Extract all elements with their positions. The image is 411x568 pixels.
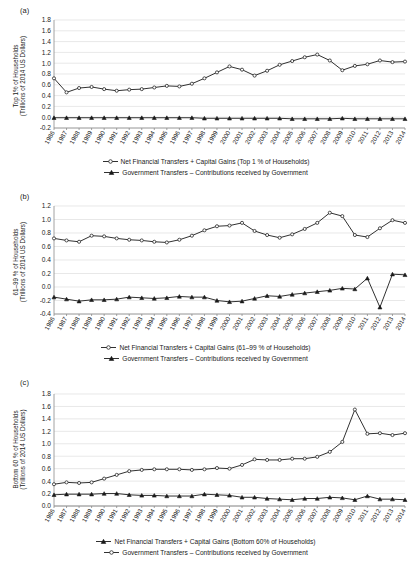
legend-item: Net Financial Transfers + Capital Gains … bbox=[0, 342, 411, 353]
svg-text:0.6: 0.6 bbox=[42, 465, 51, 472]
panel-a: (a) Top 1% of Households (Trillions of 2… bbox=[0, 0, 411, 186]
svg-text:1.0: 1.0 bbox=[42, 60, 51, 67]
svg-text:1988: 1988 bbox=[68, 507, 81, 523]
svg-text:2010: 2010 bbox=[344, 315, 357, 331]
svg-text:1989: 1989 bbox=[80, 129, 93, 145]
svg-text:1991: 1991 bbox=[105, 507, 118, 523]
panel-c-legend: Net Financial Transfers + Capital Gains … bbox=[0, 536, 411, 558]
svg-text:1994: 1994 bbox=[143, 315, 156, 331]
svg-text:1988: 1988 bbox=[68, 315, 81, 331]
svg-text:0.2: 0.2 bbox=[42, 270, 51, 277]
svg-text:1996: 1996 bbox=[168, 129, 181, 145]
svg-text:1986: 1986 bbox=[43, 315, 56, 331]
svg-text:1986: 1986 bbox=[43, 507, 56, 523]
svg-text:1994: 1994 bbox=[143, 129, 156, 145]
svg-text:0.8: 0.8 bbox=[42, 229, 51, 236]
legend-label: Government Transfers – Contributions rec… bbox=[122, 549, 307, 556]
svg-text:1987: 1987 bbox=[55, 507, 68, 523]
svg-text:2005: 2005 bbox=[281, 507, 294, 523]
svg-text:2006: 2006 bbox=[294, 507, 307, 523]
panel-a-y-axis-label-line2: (Trillions of 2014 US Dollars) bbox=[19, 17, 26, 135]
svg-text:2005: 2005 bbox=[281, 315, 294, 331]
svg-text:1993: 1993 bbox=[131, 507, 144, 523]
legend-label: Government Transfers – Contributions rec… bbox=[122, 169, 307, 176]
legend-label: Government Transfers – Contributions rec… bbox=[122, 355, 307, 362]
svg-text:1.6: 1.6 bbox=[42, 403, 51, 410]
legend-label: Net Financial Transfers + Capital Gains … bbox=[114, 538, 315, 545]
svg-text:1998: 1998 bbox=[193, 507, 206, 523]
legend-item: Government Transfers – Contributions rec… bbox=[0, 547, 411, 558]
panel-a-legend: Net Financial Transfers + Capital Gains … bbox=[0, 156, 411, 178]
svg-text:1990: 1990 bbox=[93, 129, 106, 145]
panel-b-plot-area: -0.4-0.20.00.20.40.60.81.01.219861987198… bbox=[40, 202, 411, 342]
open-circle-marker-icon bbox=[100, 343, 117, 352]
panel-c: (c) Bottom 60 % of Households (Trillions… bbox=[0, 372, 411, 568]
svg-text:1.2: 1.2 bbox=[42, 428, 51, 435]
filled-triangle-marker-icon bbox=[103, 168, 120, 177]
svg-text:1990: 1990 bbox=[93, 507, 106, 523]
svg-text:2014: 2014 bbox=[394, 315, 407, 331]
svg-text:2009: 2009 bbox=[331, 129, 344, 145]
svg-text:2013: 2013 bbox=[381, 129, 394, 145]
svg-text:1.4: 1.4 bbox=[42, 415, 51, 422]
svg-text:1.6: 1.6 bbox=[42, 27, 51, 34]
open-circle-marker-icon bbox=[103, 548, 120, 557]
svg-text:2002: 2002 bbox=[243, 315, 256, 331]
svg-text:2000: 2000 bbox=[218, 129, 231, 145]
svg-text:1992: 1992 bbox=[118, 129, 131, 145]
svg-text:0.2: 0.2 bbox=[42, 103, 51, 110]
svg-text:1987: 1987 bbox=[55, 129, 68, 145]
panel-b-y-axis-label: 61–99 % of Households (Trillions of 2014… bbox=[12, 203, 27, 321]
svg-text:2000: 2000 bbox=[218, 507, 231, 523]
panel-b: (b) 61–99 % of Households (Trillions of … bbox=[0, 186, 411, 372]
svg-text:1999: 1999 bbox=[206, 507, 219, 523]
svg-text:0.8: 0.8 bbox=[42, 70, 51, 77]
svg-text:2007: 2007 bbox=[306, 507, 319, 523]
svg-text:0.8: 0.8 bbox=[42, 453, 51, 460]
svg-text:-0.2: -0.2 bbox=[40, 297, 51, 304]
svg-text:2014: 2014 bbox=[394, 129, 407, 145]
svg-text:1990: 1990 bbox=[93, 315, 106, 331]
svg-text:1998: 1998 bbox=[193, 315, 206, 331]
svg-text:1986: 1986 bbox=[43, 129, 56, 145]
svg-text:2003: 2003 bbox=[256, 507, 269, 523]
svg-text:2011: 2011 bbox=[356, 507, 369, 523]
svg-text:0.4: 0.4 bbox=[42, 478, 51, 485]
svg-text:1992: 1992 bbox=[118, 315, 131, 331]
svg-text:2013: 2013 bbox=[381, 315, 394, 331]
filled-triangle-marker-icon bbox=[103, 354, 120, 363]
svg-text:1997: 1997 bbox=[181, 507, 194, 523]
svg-text:1995: 1995 bbox=[156, 129, 169, 145]
svg-text:1999: 1999 bbox=[206, 129, 219, 145]
svg-text:2003: 2003 bbox=[256, 129, 269, 145]
panel-a-y-axis-label-line1: Top 1% of Households bbox=[12, 45, 19, 108]
svg-text:2008: 2008 bbox=[319, 507, 332, 523]
svg-text:2007: 2007 bbox=[306, 315, 319, 331]
panel-c-tag: (c) bbox=[20, 378, 29, 387]
svg-text:1992: 1992 bbox=[118, 507, 131, 523]
svg-text:2006: 2006 bbox=[294, 129, 307, 145]
svg-text:2007: 2007 bbox=[306, 129, 319, 145]
svg-text:2009: 2009 bbox=[331, 315, 344, 331]
svg-text:0.6: 0.6 bbox=[42, 81, 51, 88]
filled-triangle-marker-icon bbox=[95, 537, 112, 546]
svg-text:1989: 1989 bbox=[80, 315, 93, 331]
figure-three-panel-chart: (a) Top 1% of Households (Trillions of 2… bbox=[0, 0, 411, 568]
svg-text:2001: 2001 bbox=[231, 129, 244, 145]
svg-text:1.8: 1.8 bbox=[42, 16, 51, 23]
svg-text:2004: 2004 bbox=[268, 129, 281, 145]
svg-text:1987: 1987 bbox=[55, 315, 68, 331]
svg-text:2012: 2012 bbox=[369, 129, 382, 145]
svg-text:1.2: 1.2 bbox=[42, 49, 51, 56]
svg-text:2002: 2002 bbox=[243, 507, 256, 523]
svg-text:1989: 1989 bbox=[80, 507, 93, 523]
svg-text:2011: 2011 bbox=[356, 129, 369, 145]
svg-text:1994: 1994 bbox=[143, 507, 156, 523]
svg-text:0.0: 0.0 bbox=[42, 283, 51, 290]
svg-text:1991: 1991 bbox=[105, 129, 118, 145]
svg-text:1993: 1993 bbox=[131, 315, 144, 331]
panel-a-tag: (a) bbox=[20, 6, 29, 15]
svg-text:2009: 2009 bbox=[331, 507, 344, 523]
svg-text:1997: 1997 bbox=[181, 129, 194, 145]
panel-a-plot-area: -0.20.00.20.40.60.81.01.21.41.61.8198619… bbox=[40, 16, 411, 156]
